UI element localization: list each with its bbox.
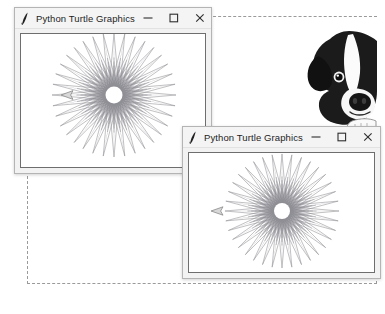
window-2-titlebar[interactable]: Python Turtle Graphics	[183, 127, 380, 148]
window-1-titlebar[interactable]: Python Turtle Graphics	[15, 8, 211, 29]
spirograph-drawing-1	[21, 34, 206, 168]
window-2-minimize-button[interactable]	[303, 127, 329, 147]
window-2-maximize-button[interactable]	[329, 127, 355, 147]
window-2-close-button[interactable]	[355, 127, 381, 147]
window-1-title: Python Turtle Graphics	[36, 13, 135, 24]
french-bulldog-photo	[300, 17, 377, 130]
turtle-graphics-window-2[interactable]: Python Turtle Graphics	[182, 126, 381, 279]
window-1-close-button[interactable]	[187, 8, 213, 28]
window-2-canvas-area	[183, 148, 380, 278]
turtle-cursor-2	[211, 207, 223, 215]
python-turtle-feather-icon	[20, 12, 31, 25]
window-1-minimize-button[interactable]	[135, 8, 161, 28]
turtle-canvas-2[interactable]	[188, 152, 375, 273]
python-turtle-feather-icon	[188, 131, 199, 144]
turtle-canvas-1[interactable]	[20, 33, 206, 168]
window-1-maximize-button[interactable]	[161, 8, 187, 28]
spirograph-drawing-2	[189, 153, 375, 273]
desktop-page: Python Turtle Graphics	[0, 0, 385, 314]
window-2-title: Python Turtle Graphics	[204, 132, 303, 143]
